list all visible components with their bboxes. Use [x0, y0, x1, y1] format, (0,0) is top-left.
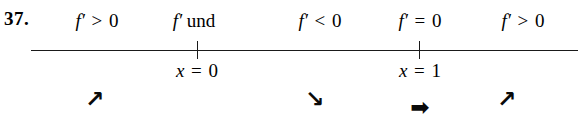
relation-symbol: und [187, 10, 216, 31]
equals-symbol: = [189, 60, 204, 81]
arrow-decreasing-1: ↘ [305, 88, 324, 111]
variable-symbol: x [176, 60, 184, 81]
point-label-x-1: f′ = 0 [398, 11, 441, 30]
relation-value: 0 [109, 10, 119, 31]
exercise-number: 37. [4, 9, 29, 28]
relation-symbol: < [313, 10, 328, 31]
interval-label-1: f′ > 0 [75, 11, 118, 30]
point-label-und-x-0: f′ und [173, 11, 216, 30]
axis-point-label-x-1: x = 1 [399, 61, 441, 80]
point-value: 0 [209, 60, 219, 81]
relation-symbol: > [516, 10, 531, 31]
relation-value: 0 [432, 10, 442, 31]
axis-point-label-x-0: x = 0 [176, 61, 218, 80]
equals-symbol: = [412, 60, 427, 81]
arrow-constant-1: ➡ [410, 96, 429, 119]
exercise-sign-chart-figure: 37. f′ > 0f′ undf′ < 0f′ = 0f′ > 0 x = 0… [0, 0, 578, 124]
tick-x-0 [197, 41, 198, 59]
relation-symbol: = [413, 10, 428, 31]
relation-value: 0 [535, 10, 545, 31]
arrow-increasing-2: ↗ [497, 88, 516, 111]
arrow-increasing-1: ↗ [85, 88, 104, 111]
prime-symbol: ′ [81, 10, 85, 31]
prime-symbol: ′ [507, 10, 511, 31]
interval-label-2: f′ < 0 [298, 11, 341, 30]
tick-x-1 [419, 41, 420, 59]
prime-symbol: ′ [404, 10, 408, 31]
relation-value: 0 [332, 10, 342, 31]
variable-symbol: x [399, 60, 407, 81]
prime-symbol: ′ [178, 10, 182, 31]
point-value: 1 [432, 60, 442, 81]
number-line-axis [31, 50, 578, 51]
prime-symbol: ′ [304, 10, 308, 31]
relation-symbol: > [90, 10, 105, 31]
interval-label-3: f′ > 0 [501, 11, 544, 30]
